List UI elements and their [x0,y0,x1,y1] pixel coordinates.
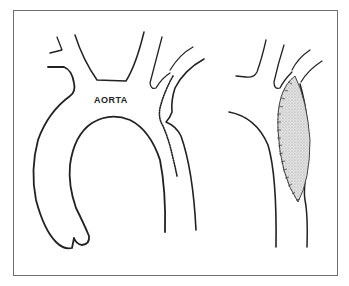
aorta-label: AORTA [94,95,128,105]
right-branch-4 [301,61,322,82]
descending-outer-wall [166,59,204,230]
aorta-illustration [0,0,349,286]
diagram-figure: AORTA [0,0,349,286]
branch-left-top [50,37,62,53]
branch-left-carotid [150,37,170,88]
branch-trunk [75,32,144,81]
right-branch-1 [236,40,266,77]
right-inner-arch [229,112,276,247]
patch-graft [277,76,310,202]
patch-fill [278,76,310,202]
branch-subclavian-upper [170,47,193,70]
right-branch-3 [292,50,310,70]
left-panel [33,32,204,248]
